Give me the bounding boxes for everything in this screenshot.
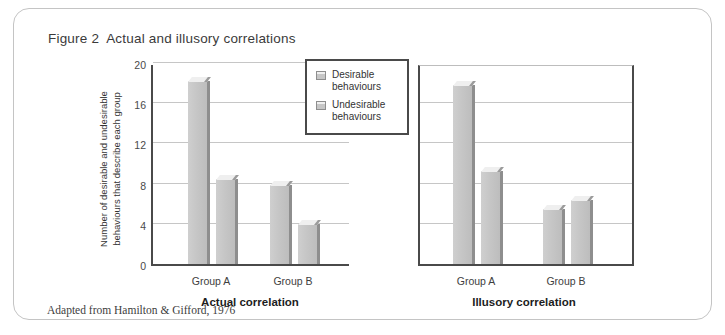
figure-title-text: Actual and illusory correlations xyxy=(106,31,296,46)
plot-area-illusory xyxy=(418,65,634,266)
category-label: Group B xyxy=(546,275,585,287)
bar xyxy=(216,179,238,264)
legend-label-desirable-line1: Desirable xyxy=(332,69,374,80)
chart-legend: Desirable behaviours Undesirable behavio… xyxy=(305,59,409,135)
gridline xyxy=(153,142,349,143)
y-axis-title-line1: Number of desirable and undesirable xyxy=(98,69,111,269)
bar xyxy=(298,224,320,264)
legend-label-undesirable: Undesirable behaviours xyxy=(332,99,385,122)
legend-swatch-icon xyxy=(316,71,326,80)
y-axis-title: Number of desirable and undesirable beha… xyxy=(98,69,128,269)
gridline xyxy=(420,183,632,184)
legend-label-undesirable-line2: behaviours xyxy=(332,111,381,122)
legend-label-desirable: Desirable behaviours xyxy=(332,69,381,92)
gridline xyxy=(420,142,632,143)
category-label: Group A xyxy=(457,275,496,287)
bar xyxy=(571,200,593,264)
legend-swatch-icon xyxy=(316,101,326,110)
figure-number: Figure 2 xyxy=(48,31,99,46)
legend-label-undesirable-line1: Undesirable xyxy=(332,99,385,110)
legend-item-undesirable: Undesirable behaviours xyxy=(316,99,407,122)
source-note: Adapted from Hamilton & Gifford, 1976 xyxy=(47,304,235,316)
bar xyxy=(453,85,475,264)
bar xyxy=(481,171,503,264)
figure-frame: Figure 2Actual and illusory correlations… xyxy=(13,8,712,320)
gridline xyxy=(153,183,349,184)
category-label: Group B xyxy=(273,275,312,287)
bar xyxy=(270,185,292,264)
figure-title: Figure 2Actual and illusory correlations xyxy=(48,31,296,46)
bar xyxy=(188,81,210,264)
y-axis-title-line2: behaviours that describe each group xyxy=(111,69,124,269)
chart-panel-illusory-correlation xyxy=(418,65,634,266)
bar xyxy=(543,209,565,264)
gridline xyxy=(420,102,632,103)
gridline xyxy=(420,223,632,224)
panel-title-illusory: Illusory correlation xyxy=(472,296,576,308)
legend-item-desirable: Desirable behaviours xyxy=(316,69,407,92)
category-label: Group A xyxy=(192,275,231,287)
legend-label-desirable-line2: behaviours xyxy=(332,81,381,92)
